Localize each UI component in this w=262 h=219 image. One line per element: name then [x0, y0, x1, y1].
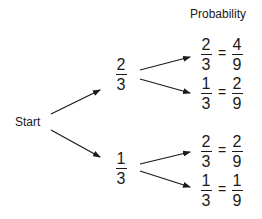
denominator: 3 [202, 57, 211, 72]
fraction-bar [232, 190, 243, 191]
denominator: 3 [202, 96, 211, 111]
denominator: 3 [202, 193, 211, 208]
edge-top-to-o1 [140, 57, 190, 70]
equals-sign: = [218, 85, 226, 99]
denominator: 9 [233, 154, 242, 169]
node-bottom-fraction: 1 3 [114, 151, 128, 186]
denominator: 3 [117, 77, 126, 92]
fraction-bar [201, 190, 212, 191]
denominator: 3 [202, 154, 211, 169]
numerator: 1 [202, 76, 211, 91]
fraction-bar [232, 151, 243, 152]
branch-fraction: 1 3 [199, 173, 213, 208]
fraction-bar [201, 54, 212, 55]
equals-sign: = [218, 182, 226, 196]
branch-fraction: 1 3 [199, 76, 213, 111]
branch-fraction: 2 3 [199, 134, 213, 169]
fraction-bar [232, 93, 243, 94]
numerator: 1 [117, 151, 126, 166]
denominator: 9 [233, 96, 242, 111]
node-top-fraction: 2 3 [114, 57, 128, 92]
probability-fraction: 2 9 [230, 134, 244, 169]
probability-fraction: 2 9 [230, 76, 244, 111]
numerator: 1 [202, 173, 211, 188]
branch-fraction: 2 3 [199, 37, 213, 72]
numerator: 1 [233, 173, 242, 188]
numerator: 2 [233, 134, 242, 149]
edge-top-to-o2 [140, 79, 190, 93]
start-node: Start [15, 115, 40, 129]
numerator: 2 [202, 134, 211, 149]
edge-bottom-to-o3 [140, 152, 190, 164]
probability-fraction: 1 9 [230, 173, 244, 208]
numerator: 4 [233, 37, 242, 52]
probability-header: Probability [190, 7, 246, 21]
fraction-bar [232, 54, 243, 55]
fraction-bar [201, 151, 212, 152]
probability-fraction: 4 9 [230, 37, 244, 72]
denominator: 3 [117, 171, 126, 186]
denominator: 9 [233, 193, 242, 208]
edge-start-to-bottom [51, 130, 100, 157]
edge-bottom-to-o4 [140, 171, 190, 187]
fraction-bar [201, 93, 212, 94]
fraction-bar [116, 74, 127, 75]
fraction-bar [116, 168, 127, 169]
denominator: 9 [233, 57, 242, 72]
equals-sign: = [218, 46, 226, 60]
numerator: 2 [202, 37, 211, 52]
numerator: 2 [117, 57, 126, 72]
edge-start-to-top [51, 90, 100, 114]
numerator: 2 [233, 76, 242, 91]
equals-sign: = [218, 143, 226, 157]
